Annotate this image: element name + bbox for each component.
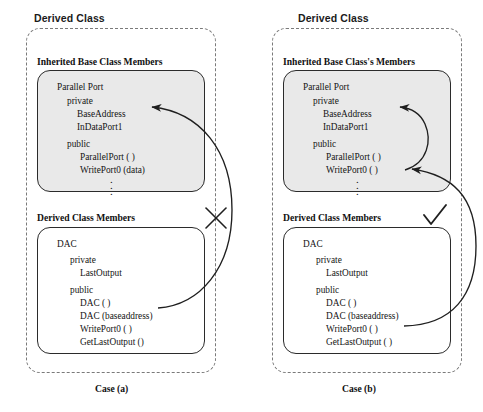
case-a-base-access-public: public <box>67 140 90 149</box>
case-b-base-access-private: private <box>313 97 339 106</box>
case-b-derived-member-writeport0: WritePort0 ( ) <box>326 325 378 334</box>
case-b-base-ellipsis-icon: ... <box>356 176 359 194</box>
case-b-derived-member-lastoutput: LastOutput <box>326 269 368 278</box>
case-a-derived-member-dac-baseaddress: DAC (baseaddress) <box>80 312 153 321</box>
case-a-derived-member-writeport0: WritePort0 ( ) <box>80 325 132 334</box>
case-b-derived-access-private: private <box>316 256 342 265</box>
case-a-derived-member-getlastoutput: GetLastOutput () <box>80 338 144 347</box>
case-b-derived-member-getlastoutput: GetLastOutput ( ) <box>326 338 392 347</box>
case-a-base-class-name: Parallel Port <box>57 83 103 92</box>
case-b-derived-member-dac-baseaddress: DAC (baseaddress) <box>326 312 399 321</box>
case-a-derived-class-name: DAC <box>57 240 77 249</box>
case-a-label: Case (a) <box>95 383 128 394</box>
case-b-derived-access-public: public <box>316 286 339 295</box>
case-b-derived-class-name: DAC <box>303 240 323 249</box>
diagram-canvas: Derived Class Inherited Base Class Membe… <box>0 0 483 412</box>
case-b-base-member-writeport0: WritePort0 ( ) <box>326 166 378 175</box>
case-a-derived-access-public: public <box>70 286 93 295</box>
case-a-inherited-section-title: Inherited Base Class Members <box>37 56 163 67</box>
case-b-derived-section-title: Derived Class Members <box>283 212 381 223</box>
case-a-base-member-indataport1: InDataPort1 <box>77 123 122 132</box>
case-a-derived-access-private: private <box>70 256 96 265</box>
case-b-base-class-name: Parallel Port <box>303 83 349 92</box>
case-a-base-member-baseaddress: BaseAddress <box>77 110 126 119</box>
case-b-base-member-indataport1: InDataPort1 <box>323 123 368 132</box>
case-a-base-ellipsis-icon: ... <box>110 176 113 194</box>
case-a-base-member-parallelport-ctor: ParallelPort ( ) <box>80 153 135 162</box>
case-a-derived-member-dac-ctor: DAC ( ) <box>80 299 110 308</box>
case-b-base-member-baseaddress: BaseAddress <box>323 110 372 119</box>
case-a-derived-member-lastoutput: LastOutput <box>80 269 122 278</box>
case-b-derived-class-title: Derived Class <box>298 12 369 24</box>
case-b-derived-member-dac-ctor: DAC ( ) <box>326 299 356 308</box>
case-b-base-access-public: public <box>313 140 336 149</box>
case-b-label: Case (b) <box>342 383 376 394</box>
case-a-derived-class-title: Derived Class <box>34 12 105 24</box>
case-b-base-member-parallelport-ctor: ParallelPort ( ) <box>326 153 381 162</box>
case-a-base-access-private: private <box>67 97 93 106</box>
case-b-inherited-section-title: Inherited Base Class's Members <box>283 56 415 67</box>
case-a-derived-section-title: Derived Class Members <box>37 212 135 223</box>
